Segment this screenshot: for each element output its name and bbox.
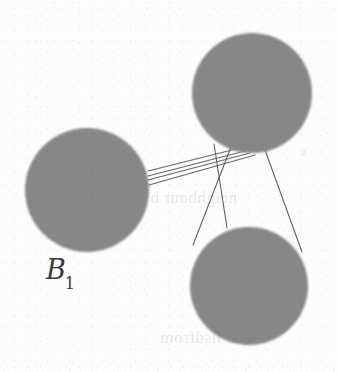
edge-left-to-topright-4 xyxy=(149,155,255,185)
edge-left-to-topright-3 xyxy=(148,153,250,180)
node-label-b1-subscript: 1 xyxy=(65,274,75,293)
diagram-svg xyxy=(0,0,339,372)
disk-bottom-right xyxy=(190,227,308,345)
figure-canvas: neighbour b du llsdfrom x xyxy=(0,0,339,372)
node-group xyxy=(25,33,312,345)
disk-left xyxy=(25,128,149,252)
node-label-b1-base: B xyxy=(46,254,66,285)
edge-topright-to-bottomright-left xyxy=(193,147,231,245)
disk-top-right xyxy=(192,33,312,153)
node-label-b1: B1 xyxy=(46,256,76,288)
edge-left-to-topright-2 xyxy=(148,151,245,176)
